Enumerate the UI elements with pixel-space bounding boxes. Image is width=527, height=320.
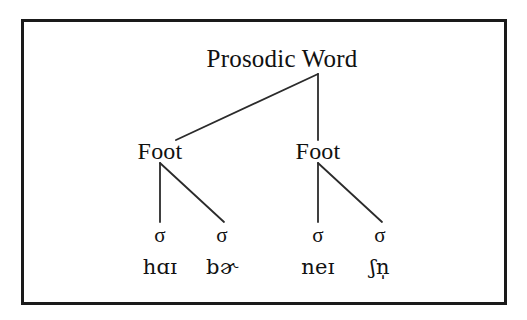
prosodic-tree-figure: Prosodic Word Foot Foot σ hɑɪ σ bɚ σ neɪ… [0, 0, 527, 320]
node-sigma-1: σ [154, 225, 165, 246]
node-segment-3: neɪ [301, 257, 335, 278]
node-sigma-2: σ [216, 225, 227, 246]
node-sigma-4: σ [374, 225, 385, 246]
node-prosodic-word: Prosodic Word [207, 46, 358, 71]
node-foot-right: Foot [296, 139, 341, 163]
node-segment-1: hɑɪ [143, 257, 178, 278]
node-segment-2: bɚ [206, 257, 238, 278]
node-foot-left: Foot [138, 139, 183, 163]
node-sigma-3: σ [312, 225, 323, 246]
node-segment-4: ʃn̩ [370, 257, 390, 278]
